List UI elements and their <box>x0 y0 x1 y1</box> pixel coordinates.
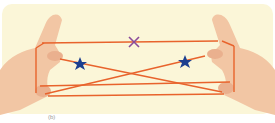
figure-frame: (b) <box>0 0 275 123</box>
string-figure <box>0 0 275 123</box>
star-marker-icon <box>73 57 87 70</box>
left-hand <box>0 15 63 115</box>
right-hand <box>207 15 275 115</box>
star-marker-icon <box>178 55 192 68</box>
figure-caption: (b) <box>48 114 55 120</box>
strings <box>36 41 234 96</box>
